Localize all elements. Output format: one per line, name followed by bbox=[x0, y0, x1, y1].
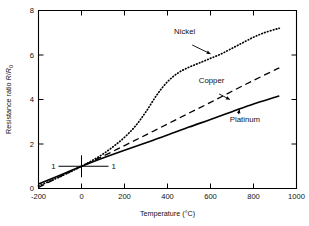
y-axis-tick-label: 4 bbox=[30, 95, 34, 104]
series-label-platinum: Platinum bbox=[230, 115, 260, 124]
x-axis-title: Temperature (°C) bbox=[140, 209, 195, 218]
svg-text:Resistance ratio R/R0: Resistance ratio R/R0 bbox=[4, 65, 14, 134]
x-axis-tick-label: 0 bbox=[79, 192, 83, 201]
y-axis-tick-label: 8 bbox=[30, 6, 34, 15]
plot-frame bbox=[39, 11, 297, 189]
reference-label-right: 1 bbox=[112, 162, 116, 171]
x-axis-tick-label: 800 bbox=[247, 192, 260, 201]
reference-label-left: 1 bbox=[51, 162, 55, 171]
series-label-nickel: Nickel bbox=[174, 27, 195, 36]
series-leader-nickel bbox=[192, 45, 210, 54]
x-axis-tick-label: 200 bbox=[118, 192, 131, 201]
y-axis-tick-label: 6 bbox=[30, 51, 34, 60]
y-axis-title: Resistance ratio R/R0 bbox=[4, 65, 14, 134]
series-label-copper: Copper bbox=[199, 76, 225, 85]
x-axis-tick-label: 600 bbox=[204, 192, 217, 201]
y-axis-tick-label: 2 bbox=[30, 140, 34, 149]
x-axis-tick-label: 400 bbox=[161, 192, 174, 201]
x-axis-tick-label: -200 bbox=[31, 192, 46, 201]
series-line-platinum bbox=[39, 96, 280, 184]
x-axis-tick-label: 1000 bbox=[288, 192, 305, 201]
resistance-ratio-chart: 02468-2000200400600800100011NickelCopper… bbox=[0, 0, 309, 226]
chart-canvas: 02468-2000200400600800100011NickelCopper… bbox=[0, 0, 309, 226]
